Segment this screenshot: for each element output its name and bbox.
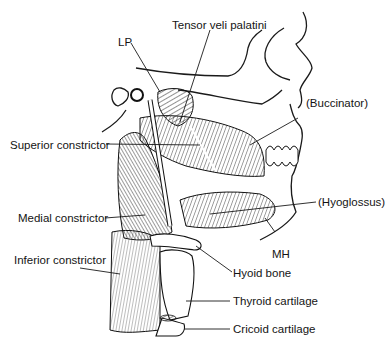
label-medial-constrictor: Medial constrictor (18, 212, 108, 225)
label-lp: LP (118, 36, 132, 49)
label-cricoid-cartilage: Cricoid cartilage (233, 323, 315, 336)
label-thyroid-cartilage: Thyroid cartilage (233, 295, 318, 308)
ear-ossicle (131, 89, 143, 101)
thyroid-cartilage-shape (160, 250, 194, 320)
label-hyoglossus: (Hyoglossus) (318, 196, 385, 209)
label-hyoid-bone: Hyoid bone (233, 267, 291, 280)
label-superior-constrictor: Superior constrictor (10, 139, 110, 152)
label-inferior-constrictor: Inferior constrictor (14, 254, 106, 267)
label-mh: MH (272, 248, 290, 261)
teeth (266, 146, 298, 166)
label-buccinator: (Buccinator) (306, 97, 368, 110)
label-tensor-veli-palatini: Tensor veli palatini (172, 19, 267, 32)
hyoglossus-muscle (180, 192, 275, 228)
pharynx-illustration (0, 0, 391, 350)
anatomy-figure: Tensor veli palatini LP (Buccinator) Sup… (0, 0, 391, 350)
